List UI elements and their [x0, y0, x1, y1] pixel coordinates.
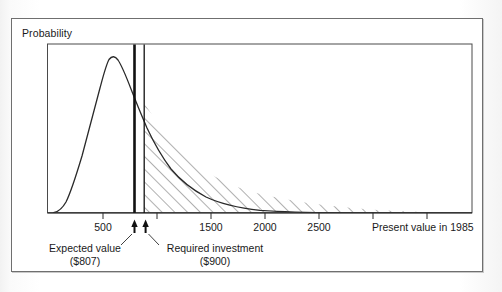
plot-box — [48, 44, 473, 213]
x-axis-ticks — [103, 213, 427, 219]
required-investment-arrow — [142, 220, 148, 228]
expected-value-callout: Expected value ($807) — [49, 242, 121, 268]
x-tick-label-500: 500 — [94, 221, 112, 233]
figure-root: Probability — [0, 0, 502, 292]
required-investment-leader — [149, 234, 160, 245]
expected-value-callout-label: Expected value — [49, 242, 121, 255]
x-axis-title: Present value in 1985 — [372, 221, 474, 233]
x-tick-label-2500: 2500 — [307, 221, 330, 233]
required-investment-callout-value: ($900) — [167, 255, 263, 268]
expected-value-arrow — [131, 220, 137, 228]
marker-arrows — [131, 220, 149, 234]
expected-value-callout-value: ($807) — [49, 255, 121, 268]
x-tick-label-1500: 1500 — [199, 221, 222, 233]
required-investment-callout-label: Required investment — [167, 242, 263, 255]
required-investment-callout: Required investment ($900) — [167, 242, 263, 268]
expected-value-leader — [121, 234, 132, 245]
callout-leader-lines — [121, 234, 159, 245]
x-tick-label-2000: 2000 — [253, 221, 276, 233]
